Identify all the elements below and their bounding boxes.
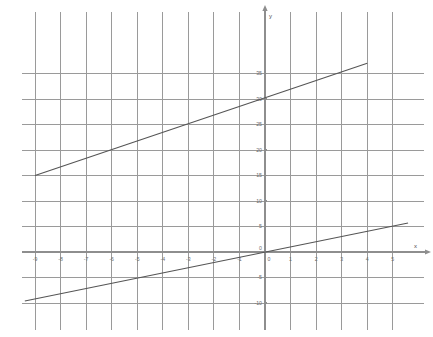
x-tick-label: 1 [289, 256, 292, 262]
y-tick-label: 20 [256, 147, 262, 153]
x-tick-label: -7 [84, 256, 89, 262]
x-axis-tick-labels: -9-8-7-6-5-4-3-2-1012345 [33, 256, 395, 262]
vertical-gridlines [35, 12, 393, 330]
coordinate-plane-chart: -9-8-7-6-5-4-3-2-1012345 35302520151050-… [0, 0, 433, 337]
x-tick-label: 4 [366, 256, 369, 262]
graph-canvas: -9-8-7-6-5-4-3-2-1012345 35302520151050-… [0, 0, 433, 337]
x-tick-label: -6 [109, 256, 114, 262]
y-tick-label: 5 [259, 223, 262, 229]
y-tick-label: -10 [255, 300, 263, 306]
y-axis-label: y [269, 13, 272, 19]
y-tick-label: 0 [259, 245, 262, 251]
x-tick-label: -4 [160, 256, 165, 262]
x-tick-label: 3 [340, 256, 343, 262]
x-tick-label: -3 [186, 256, 191, 262]
x-tick-label: 2 [315, 256, 318, 262]
x-tick-label: -8 [58, 256, 63, 262]
data-line-lower-line [25, 223, 408, 301]
x-tick-label: -2 [212, 256, 217, 262]
x-axis-arrow-icon [425, 249, 431, 254]
x-tick-label: -5 [135, 256, 140, 262]
y-tick-label: -5 [257, 274, 262, 280]
x-tick-label: 5 [391, 256, 394, 262]
x-tick-label: -9 [33, 256, 38, 262]
y-axis-arrow-icon [262, 5, 267, 11]
y-tick-label: 35 [256, 70, 262, 76]
y-tick-label: 10 [256, 198, 262, 204]
x-axis-label: x [414, 243, 417, 249]
x-tick-label: 0 [268, 256, 271, 262]
y-tick-label: 15 [256, 172, 262, 178]
y-tick-label: 25 [256, 121, 262, 127]
data-line-upper-line [35, 63, 367, 175]
axes [22, 5, 431, 330]
horizontal-gridlines [22, 74, 424, 304]
